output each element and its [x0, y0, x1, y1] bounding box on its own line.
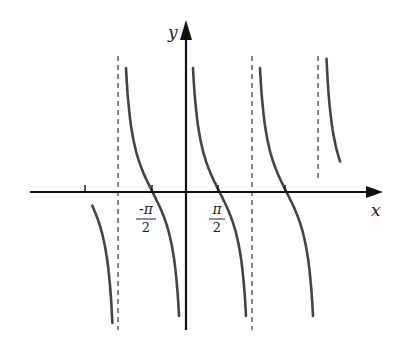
neg-half-pi-denominator: 2: [142, 220, 150, 235]
cotangent-graph: y x -π 2 π 2: [0, 0, 405, 350]
tick-label-neg-half-pi: -π 2: [136, 201, 156, 235]
x-axis-label: x: [371, 200, 381, 220]
y-axis-label: y: [167, 22, 178, 42]
half-pi-denominator: 2: [213, 220, 221, 235]
neg-half-pi-numerator: -π: [139, 201, 154, 217]
y-axis-arrow-icon: [180, 20, 192, 40]
half-pi-numerator: π: [211, 201, 222, 217]
x-axis-arrow-icon: [366, 186, 383, 198]
cot-curves: [92, 59, 340, 323]
axes: [30, 36, 370, 330]
branch-left-partial: [92, 206, 112, 323]
tick-label-half-pi: π 2: [209, 201, 225, 235]
branch-right-partial: [327, 59, 341, 162]
